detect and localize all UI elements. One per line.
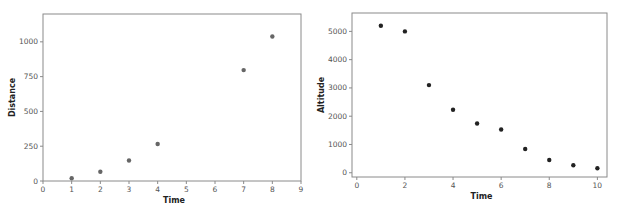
- x-tick-label: 2: [98, 185, 103, 194]
- x-tick-label: 5: [184, 185, 189, 194]
- plot-frame: [43, 14, 301, 181]
- data-point: [571, 163, 575, 167]
- data-point: [69, 176, 73, 180]
- data-point: [499, 127, 503, 131]
- x-tick-label: 6: [499, 181, 504, 190]
- data-point: [523, 147, 527, 151]
- y-tick-label: 5000: [328, 27, 347, 36]
- data-point: [427, 83, 431, 87]
- y-tick-label: 1000: [19, 37, 38, 46]
- data-point: [241, 68, 245, 72]
- x-tick-label: 8: [270, 185, 275, 194]
- x-tick-label: 1: [69, 185, 74, 194]
- distance-scatter-plot: 012345678902505007501000TimeDistance: [0, 0, 309, 207]
- data-point: [155, 142, 159, 146]
- data-point: [595, 166, 599, 170]
- x-tick-label: 0: [41, 185, 46, 194]
- data-point: [127, 158, 131, 162]
- plot-frame: [352, 13, 607, 177]
- x-axis-title: Time: [471, 192, 494, 201]
- x-tick-label: 3: [127, 185, 132, 194]
- y-tick-label: 750: [24, 72, 39, 81]
- y-tick-label: 500: [24, 107, 39, 116]
- data-point: [98, 169, 102, 173]
- data-point: [451, 108, 455, 112]
- data-point: [379, 24, 383, 28]
- data-point: [547, 158, 551, 162]
- x-tick-label: 9: [299, 185, 304, 194]
- x-tick-label: 10: [593, 181, 603, 190]
- y-tick-label: 4000: [328, 55, 347, 64]
- x-tick-label: 8: [547, 181, 552, 190]
- x-tick-label: 6: [213, 185, 218, 194]
- x-tick-label: 4: [155, 185, 160, 194]
- distance-chart: 012345678902505007501000TimeDistance: [0, 0, 309, 207]
- x-tick-label: 7: [241, 185, 246, 194]
- x-tick-label: 2: [403, 181, 408, 190]
- y-tick-label: 2000: [328, 112, 347, 121]
- altitude-chart: 0246810010002000300040005000TimeAltitude: [309, 0, 618, 207]
- y-tick-label: 250: [24, 142, 39, 151]
- altitude-scatter-plot: 0246810010002000300040005000TimeAltitude: [309, 0, 618, 207]
- data-point: [403, 29, 407, 33]
- y-tick-label: 0: [342, 168, 347, 177]
- y-tick-label: 1000: [328, 140, 347, 149]
- x-tick-label: 0: [354, 181, 359, 190]
- x-tick-label: 4: [451, 181, 456, 190]
- y-axis-title: Distance: [8, 77, 17, 117]
- y-axis-title: Altitude: [317, 76, 326, 113]
- data-point: [475, 121, 479, 125]
- x-axis-title: Time: [163, 196, 186, 205]
- y-tick-label: 3000: [328, 83, 347, 92]
- data-point: [270, 34, 274, 38]
- y-tick-label: 0: [33, 177, 38, 186]
